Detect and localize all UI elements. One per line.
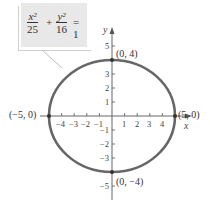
y-tick-label: −2 bbox=[100, 139, 109, 149]
x-tick-label: 4 bbox=[160, 119, 165, 129]
y-tick-label: 2 bbox=[105, 83, 109, 93]
y-tick-label: 3 bbox=[105, 69, 109, 79]
x-tick-label: −3 bbox=[69, 119, 78, 129]
x-axis-label: x bbox=[183, 120, 189, 131]
y-tick-label: −5 bbox=[100, 181, 109, 191]
y-tick-label: −1 bbox=[100, 125, 109, 135]
x-tick-label: 2 bbox=[135, 119, 139, 129]
y-axis-label: y bbox=[102, 24, 108, 35]
point-label-left: (−5, 0) bbox=[9, 109, 36, 121]
vertex-point-top bbox=[110, 58, 114, 62]
ellipse-diagram: −4 −3 −2 −1 1 2 3 4 5 3 2 1 −1 −2 −3 −5 … bbox=[0, 0, 210, 204]
y-tick-label: 5 bbox=[105, 41, 109, 51]
point-label-right: (5, 0) bbox=[178, 109, 200, 121]
vertex-point-right bbox=[173, 114, 177, 118]
x-tick-label: 3 bbox=[147, 119, 151, 129]
point-label-top: (0, 4) bbox=[116, 48, 138, 60]
x-tick-label: 1 bbox=[122, 119, 126, 129]
vertex-point-bottom bbox=[110, 170, 114, 174]
y-axis-arrow-icon bbox=[110, 27, 115, 34]
y-tick-label: −3 bbox=[100, 153, 109, 163]
y-tick-label: 1 bbox=[105, 97, 109, 107]
x-tick-label: −4 bbox=[56, 119, 66, 129]
x-tick-label: −2 bbox=[81, 119, 90, 129]
point-label-bottom: (0, −4) bbox=[116, 176, 143, 188]
callout-leader-line bbox=[42, 50, 62, 68]
vertex-point-left bbox=[47, 114, 51, 118]
